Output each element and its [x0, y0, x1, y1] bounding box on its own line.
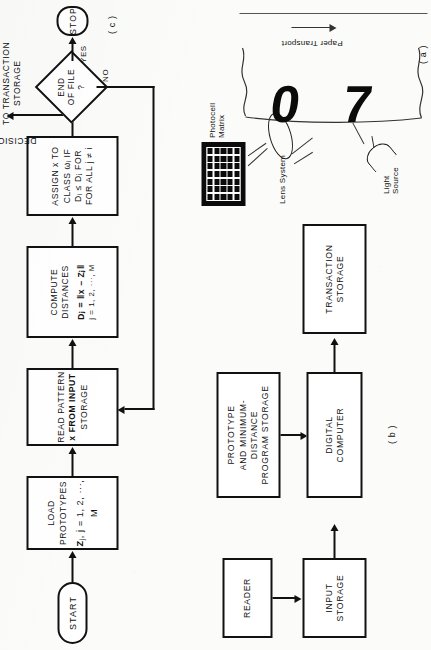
photocell-matrix-label-line2: Matrix [216, 103, 225, 138]
load-prototypes-line1: LOAD PROTOTYPES [45, 478, 68, 548]
connector-yes-to-stop [71, 41, 73, 61]
light-ray-lens-to-paper-1 [291, 137, 312, 154]
decision-annotation: DECISION [0, 136, 36, 146]
connector-no-back [152, 86, 154, 410]
block-digital-computer: DIGITAL COMPUTER [306, 372, 362, 498]
light-source-label-line2: Source [390, 167, 399, 194]
panel-a-reader-schematic: Photocell Matrix Lens System 0 7 Li [195, 4, 427, 210]
panel-b-block-diagram: READER INPUT STORAGE PROTOTYPE AND MINIM… [210, 214, 428, 644]
decision-line3: ? [76, 84, 86, 89]
light-ray-lens-to-matrix-1 [247, 148, 267, 166]
prototype-storage-line1: PROTOTYPE [225, 405, 236, 464]
transaction-storage-line2: STORAGE [334, 256, 345, 303]
panel-b-caption: ( b ) [386, 425, 396, 444]
paper-transport-arrow-shaft [291, 27, 333, 28]
assign-class-line3: Dᵢ ≤ Dⱼ FOR [72, 150, 83, 202]
arrowhead-reader-to-input [294, 595, 301, 603]
arrowhead-no-to-read [117, 406, 124, 414]
connector-reader-to-input [272, 597, 296, 599]
connector-prototype-to-computer [280, 434, 302, 436]
assign-class-line1: ASSIGN x TO [49, 146, 60, 205]
branch-yes-label: YES [78, 45, 87, 63]
block-input-storage: INPUT STORAGE [302, 558, 366, 638]
digital-computer-line2: COMPUTER [334, 408, 345, 463]
arrowhead-input-to-computer [330, 524, 338, 531]
load-prototypes-formula: Zj, j = 1, 2, ···, M [73, 478, 99, 548]
light-source-label-line1: Light [381, 167, 390, 194]
block-reader: READER [222, 558, 272, 638]
connector-load-to-read [71, 452, 73, 476]
to-transaction-storage-line1: TO TRANSACTION [0, 42, 10, 125]
figure-plate: START LOAD PROTOTYPES Zj, j = 1, 2, ···,… [0, 0, 431, 650]
decision-line2: OF FILE [66, 69, 76, 105]
stop-label: STOP [67, 7, 77, 34]
branch-no-label: NO [100, 69, 109, 82]
flowchart-step-compute-distances: COMPUTE DISTANCES Dⱼ = ‖x − Zⱼ‖ j = 1, 2… [26, 246, 118, 338]
connector-no-down [96, 86, 154, 88]
input-storage-line1: INPUT [323, 583, 334, 612]
block-prototype-storage: PROTOTYPE AND MINIMUM- DISTANCE PROGRAM … [216, 372, 280, 498]
arrowhead-compute-to-assign [68, 217, 76, 224]
paper-transport-guide [239, 13, 427, 14]
light-ray-lens-to-paper-2 [293, 152, 312, 165]
flowchart-step-assign-class: ASSIGN x TO CLASS ωᵢ IF Dᵢ ≤ Dⱼ FOR FOR … [26, 136, 118, 216]
connector-start-to-load [71, 556, 73, 582]
flowchart-step-read-pattern: READ PATTERN x FROM INPUT STORAGE [26, 368, 118, 446]
connector-no-up-to-read [124, 408, 154, 410]
photocell-matrix [201, 142, 245, 206]
flowchart-start-terminal: START [57, 582, 87, 644]
lens-system-label: Lens System [277, 155, 286, 204]
light-ray-source-2 [371, 136, 374, 148]
compute-distances-line2: Dⱼ = ‖x − Zⱼ‖ [75, 264, 86, 320]
decision-text: END OF FILE ? [45, 61, 97, 113]
reader-label: READER [241, 578, 252, 618]
read-pattern-line2: x FROM INPUT [66, 373, 77, 440]
assign-class-line4: FOR ALL j ≠ i [83, 147, 94, 205]
panel-c-flowchart: START LOAD PROTOTYPES Zj, j = 1, 2, ···,… [0, 0, 200, 650]
arrowhead-yes-to-stop [68, 37, 76, 44]
to-transaction-storage-line2: STORAGE [11, 60, 21, 106]
assign-class-line2: CLASS ωᵢ IF [61, 149, 72, 204]
arrowhead-start-to-load [68, 551, 76, 558]
photocell-matrix-label: Photocell Matrix [207, 103, 225, 138]
arrowhead-computer-to-transaction [330, 338, 338, 345]
light-source-label: Light Source [381, 167, 399, 194]
arrowhead-load-to-read [68, 447, 76, 454]
transaction-storage-line1: TRANSACTION [323, 244, 334, 313]
connector-computer-to-transaction [333, 342, 335, 372]
photocell-matrix-label-line1: Photocell [207, 103, 216, 138]
prototype-storage-line4: PROGRAM STORAGE [259, 385, 270, 484]
connector-input-to-computer [333, 528, 335, 558]
prototype-storage-line2: AND MINIMUM- [237, 400, 248, 470]
arrowhead-read-to-compute [68, 339, 76, 346]
paper-transport-label: Paper Transport [281, 39, 342, 48]
panel-c-caption: ( c ) [106, 16, 116, 35]
photocell-matrix-grid [206, 147, 240, 201]
panel-a-caption: ( a ) [417, 45, 427, 64]
read-pattern-line3: STORAGE [78, 384, 89, 430]
start-label: START [67, 596, 77, 630]
input-storage-line2: STORAGE [334, 575, 345, 622]
prototype-storage-line3: DISTANCE [248, 411, 259, 459]
compute-distances-line3: j = 1, 2, ···, M [86, 264, 96, 319]
read-pattern-line1: READ PATTERN [55, 371, 66, 443]
digital-computer-line1: DIGITAL [323, 416, 334, 454]
connector-compute-to-assign [71, 222, 73, 246]
block-transaction-storage: TRANSACTION STORAGE [302, 224, 366, 334]
connector-read-to-compute [71, 344, 73, 368]
compute-distances-line1: COMPUTE DISTANCES [48, 248, 71, 336]
flowchart-stop-terminal: STOP [56, 6, 88, 36]
paper-transport-arrowhead [329, 24, 336, 32]
flowchart-step-load-prototypes: LOAD PROTOTYPES Zj, j = 1, 2, ···, M [26, 476, 118, 550]
